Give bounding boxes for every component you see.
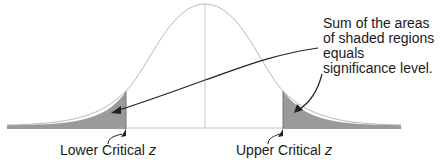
z-symbol: z (149, 141, 157, 158)
significance-annotation: Sum of the areas of shaded regions equal… (323, 16, 441, 76)
upper-critical-text: Upper Critical (236, 142, 325, 158)
annotation-arrow-to-upper-tail (298, 74, 322, 110)
upper-critical-z-label: Upper Critical z (236, 141, 332, 158)
lower-tail-shaded-region (7, 91, 126, 129)
lower-pointer-arrowhead-icon (121, 129, 126, 137)
upper-pointer-arrowhead-icon (278, 129, 283, 137)
lower-critical-z-label: Lower Critical z (60, 141, 156, 158)
z-symbol: z (325, 141, 333, 158)
lower-critical-text: Lower Critical (60, 142, 149, 158)
